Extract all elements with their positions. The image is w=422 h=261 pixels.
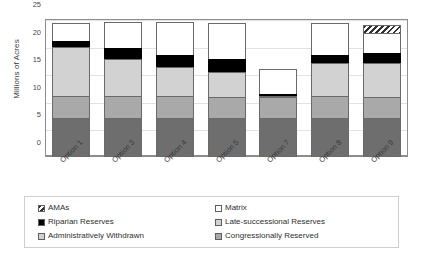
bar-segment-riparian-reserves[interactable] <box>311 55 349 63</box>
bar-segment-late-successional-reserves[interactable] <box>311 63 349 96</box>
bar-segment-late-successional-reserves[interactable] <box>259 96 297 97</box>
bar-segment-riparian-reserves[interactable] <box>259 94 297 96</box>
bar-segment-matrix[interactable] <box>104 22 142 48</box>
bar-segment-late-successional-reserves[interactable] <box>52 47 90 97</box>
legend-item-matrix[interactable]: Matrix <box>215 203 247 213</box>
chart-legend: AMAsMatrixRiparian ReservesLate-successi… <box>24 196 399 248</box>
legend-item-riparian-reserves[interactable]: Riparian Reserves <box>38 217 114 227</box>
y-tick-10: 10 <box>33 84 41 92</box>
bar-segment-riparian-reserves[interactable] <box>104 48 142 59</box>
bar-segment-matrix[interactable] <box>363 33 401 52</box>
plot-area <box>45 14 410 158</box>
legend-item-congressionally-reserved[interactable]: Congressionally Reserved <box>215 231 318 241</box>
bar-segment-administratively-withdrawn[interactable] <box>156 96 194 118</box>
y-tick-15: 15 <box>33 56 41 64</box>
bar-group-option-5[interactable] <box>208 19 246 157</box>
bar-segment-late-successional-reserves[interactable] <box>363 63 401 97</box>
bar-segment-late-successional-reserves[interactable] <box>104 59 142 96</box>
legend-swatch-icon <box>38 233 45 240</box>
bar-segment-riparian-reserves[interactable] <box>363 53 401 63</box>
legend-swatch-icon <box>38 205 45 212</box>
bar-segment-matrix[interactable] <box>208 23 246 59</box>
legend-item-amas[interactable]: AMAs <box>38 203 69 213</box>
bar-group-option-3[interactable] <box>104 19 142 157</box>
bar-segment-matrix[interactable] <box>311 23 349 56</box>
bar-group-option-9[interactable] <box>363 19 401 157</box>
bar-segment-matrix[interactable] <box>259 69 297 94</box>
legend-swatch-icon <box>215 205 222 212</box>
bar-segment-administratively-withdrawn[interactable] <box>208 97 246 119</box>
bar-group-option-8[interactable] <box>311 19 349 157</box>
legend-label: Riparian Reserves <box>48 217 114 227</box>
legend-label: AMAs <box>48 203 69 213</box>
bar-group-option-1[interactable] <box>52 19 90 157</box>
bar-segment-administratively-withdrawn[interactable] <box>311 96 349 118</box>
stacked-bar-chart: Millions of Acres 0510152025 Option 1Opt… <box>0 0 422 261</box>
bar-segment-late-successional-reserves[interactable] <box>208 72 246 97</box>
bar-group-option-7[interactable] <box>259 19 297 157</box>
bar-segment-riparian-reserves[interactable] <box>52 41 90 47</box>
bar-segment-administratively-withdrawn[interactable] <box>363 97 401 119</box>
y-tick-0: 0 <box>37 139 41 147</box>
bar-series-group <box>45 19 408 157</box>
bar-group-option-4[interactable] <box>156 19 194 157</box>
bar-segment-administratively-withdrawn[interactable] <box>259 97 297 119</box>
legend-item-administratively-withdrawn[interactable]: Administratively Withdrawn <box>38 231 144 241</box>
bar-segment-riparian-reserves[interactable] <box>208 59 246 72</box>
y-axis-tick-labels: 0510152025 <box>0 0 45 158</box>
legend-swatch-icon <box>215 219 222 226</box>
bar-segment-administratively-withdrawn[interactable] <box>104 96 142 118</box>
legend-swatch-icon <box>38 219 45 226</box>
y-tick-20: 20 <box>33 29 41 37</box>
bar-segment-amas[interactable] <box>363 25 401 33</box>
bar-segment-matrix[interactable] <box>52 23 90 41</box>
y-tick-25: 25 <box>33 1 41 9</box>
legend-label: Matrix <box>225 203 247 213</box>
legend-label: Late-successional Reserves <box>225 217 325 227</box>
bar-segment-riparian-reserves[interactable] <box>156 55 194 67</box>
legend-swatch-icon <box>215 233 222 240</box>
legend-label: Administratively Withdrawn <box>48 231 144 241</box>
bar-segment-matrix[interactable] <box>156 22 194 55</box>
bar-segment-administratively-withdrawn[interactable] <box>52 96 90 118</box>
legend-label: Congressionally Reserved <box>225 231 318 241</box>
legend-item-late-successional-reserves[interactable]: Late-successional Reserves <box>215 217 325 227</box>
bar-segment-late-successional-reserves[interactable] <box>156 67 194 96</box>
y-tick-5: 5 <box>37 111 41 119</box>
